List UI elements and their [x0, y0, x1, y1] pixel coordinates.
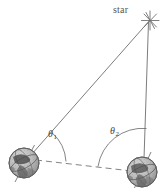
theta-1-label: θ1 — [48, 129, 56, 139]
earth-globe-right — [126, 152, 158, 188]
diagram-canvas — [0, 0, 167, 188]
triangle-edges — [24, 20, 150, 174]
theta-2-subscript: 2 — [115, 130, 119, 138]
star-icon — [142, 11, 160, 30]
theta-1-subscript: 1 — [53, 133, 57, 141]
parallax-diagram-figure: star θ1 θ2 — [0, 0, 167, 188]
star-label: star — [113, 5, 128, 15]
theta-2-label: θ2 — [110, 126, 118, 136]
sightline-right-to-star — [144, 22, 149, 174]
sightline-left-to-star — [24, 20, 150, 163]
baseline-dashed — [36, 160, 136, 172]
